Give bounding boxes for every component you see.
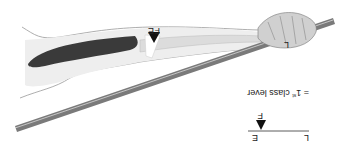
caption-sup: st [292, 93, 296, 99]
label-fulcrum: F [155, 26, 161, 35]
lever-diagram: E F L E F L = 1st class lever [0, 0, 351, 148]
legend-caption: = 1st class lever [247, 88, 309, 99]
legend-fulcrum-label: F [258, 111, 264, 120]
legend-load-label: L [304, 133, 309, 142]
caption-prefix: = 1 [296, 88, 309, 98]
arm-illustration [0, 0, 351, 148]
caption-suffix: class lever [247, 88, 292, 98]
legend-fulcrum-triangle [256, 120, 266, 130]
label-load: L [284, 40, 289, 49]
legend-effort-label: E [252, 133, 258, 142]
